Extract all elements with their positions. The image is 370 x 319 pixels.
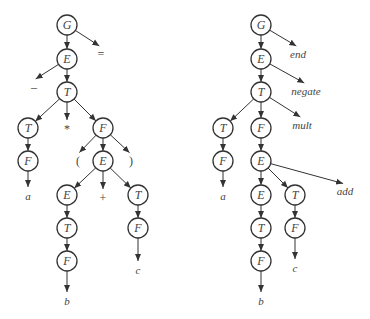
tree-node-T: T — [251, 82, 271, 102]
edge-arrow — [74, 168, 95, 188]
edge-arrow — [110, 168, 131, 188]
leaf-lparen: ( — [76, 154, 80, 168]
tree-node-G: G — [251, 15, 271, 35]
leaf-label: ) — [129, 154, 133, 168]
leaf-label: negate — [291, 85, 320, 97]
edge-arrow — [79, 135, 96, 152]
edges — [223, 30, 343, 292]
leaf-label: a — [25, 190, 31, 202]
tree-node-T: T — [18, 118, 38, 138]
leaf-add: add — [337, 185, 354, 197]
leaf-minus: – — [30, 80, 38, 94]
leaf-label: c — [136, 264, 141, 276]
node-label: E — [98, 154, 107, 168]
node-label: F — [256, 121, 265, 135]
tree-node-T: T — [285, 185, 305, 205]
tree-node-F: F — [251, 251, 271, 271]
edge-arrow — [36, 64, 59, 79]
leaf-end: end — [290, 48, 306, 60]
leaf-star: * — [64, 122, 70, 136]
tree-node-F: F — [213, 151, 233, 171]
leaf-label: = — [98, 47, 105, 61]
edge-arrow — [270, 30, 297, 46]
tree-node-F: F — [128, 218, 148, 238]
leaf-label: end — [290, 48, 306, 60]
tree-node-G: G — [57, 15, 77, 35]
edge-arrow — [74, 99, 96, 121]
edge-arrow — [270, 64, 305, 83]
tree-node-F: F — [93, 118, 113, 138]
node-label: E — [256, 154, 265, 168]
leaf-label: b — [258, 295, 264, 307]
node-label: F — [23, 154, 32, 168]
edge-arrow — [269, 97, 300, 117]
parse-tree: GETTFFEETTFF=–*()a+cb — [18, 15, 148, 307]
node-label: E — [62, 188, 71, 202]
leaf-label: * — [64, 122, 70, 136]
abstract-syntax-tree: GETTFFEETTFFendnegatemultaddacb — [213, 15, 354, 307]
tree-node-E: E — [57, 185, 77, 205]
leaf-mult: mult — [292, 119, 313, 131]
tree-node-T: T — [128, 185, 148, 205]
tree-node-F: F — [285, 218, 305, 238]
tree-node-T: T — [251, 218, 271, 238]
leaf-label: ( — [76, 154, 80, 168]
edge-arrow — [271, 164, 343, 184]
node-label: E — [256, 188, 265, 202]
leaf-label: – — [30, 80, 38, 94]
node-label: F — [256, 254, 265, 268]
node-label: F — [133, 221, 142, 235]
edge-arrow — [35, 99, 59, 121]
leaf-c: c — [136, 264, 141, 276]
tree-node-T: T — [57, 82, 77, 102]
leaf-a: a — [220, 190, 226, 202]
leaf-label: add — [337, 185, 354, 197]
tree-node-T: T — [213, 118, 233, 138]
leaf-negate: negate — [291, 85, 320, 97]
leaf-label: + — [100, 191, 107, 205]
node-label: E — [256, 52, 265, 66]
leaf-plus: + — [100, 191, 107, 205]
node-label: F — [218, 154, 227, 168]
node-label: F — [290, 221, 299, 235]
leaf-b: b — [258, 295, 264, 307]
leaf-label: c — [293, 262, 298, 274]
tree-node-E: E — [251, 49, 271, 69]
edge-arrow — [75, 30, 99, 45]
leaf-c: c — [293, 262, 298, 274]
edge-arrow — [110, 135, 129, 153]
node-label: E — [62, 52, 71, 66]
leaf-rparen: ) — [129, 154, 133, 168]
tree-node-F: F — [57, 251, 77, 271]
leaf-label: b — [64, 295, 70, 307]
node-label: G — [63, 18, 72, 32]
leaf-eq: = — [98, 47, 105, 61]
tree-node-F: F — [251, 118, 271, 138]
edge-arrow — [230, 99, 253, 121]
node-label: G — [257, 18, 266, 32]
leaf-label: mult — [292, 119, 313, 131]
leaf-label: a — [220, 190, 226, 202]
tree-node-E: E — [251, 151, 271, 171]
tree-node-F: F — [18, 151, 38, 171]
leaf-b: b — [64, 295, 70, 307]
edge-arrow — [268, 168, 288, 188]
tree-node-E: E — [57, 49, 77, 69]
leaf-a: a — [25, 190, 31, 202]
parse-tree-diagram: GETTFFEETTFF=–*()a+cb GETTFFEETTFFendneg… — [0, 0, 370, 319]
tree-node-E: E — [93, 151, 113, 171]
tree-node-E: E — [251, 185, 271, 205]
node-label: F — [98, 121, 107, 135]
edges — [28, 30, 138, 292]
node-label: F — [62, 254, 71, 268]
tree-node-T: T — [57, 218, 77, 238]
